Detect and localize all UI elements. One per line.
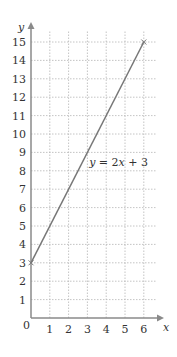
x-tick-label: 6 bbox=[140, 323, 147, 336]
y-tick-label: 12 bbox=[12, 91, 26, 104]
x-axis-label: x bbox=[163, 321, 170, 334]
y-tick-label: 9 bbox=[19, 146, 26, 159]
x-tick-label: 4 bbox=[103, 323, 110, 336]
y-tick-label: 5 bbox=[19, 220, 26, 233]
y-tick-label: 2 bbox=[19, 275, 26, 288]
y-tick-label: 8 bbox=[19, 165, 26, 178]
x-tick-label: 1 bbox=[46, 323, 53, 336]
y-tick-label: 10 bbox=[12, 128, 26, 141]
y-tick-label: 11 bbox=[12, 110, 26, 123]
y-tick-label: 7 bbox=[19, 183, 26, 196]
equation-annotation: y = 2x + 3 bbox=[88, 156, 148, 169]
x-tick-label: 5 bbox=[122, 323, 129, 336]
y-tick-label: 4 bbox=[19, 238, 26, 251]
y-tick-label: 1 bbox=[19, 294, 26, 307]
axes bbox=[28, 22, 165, 322]
y-tick-label: 14 bbox=[12, 54, 26, 67]
y-axis-arrow-icon bbox=[28, 22, 35, 29]
x-tick-label: 3 bbox=[84, 323, 91, 336]
grid-lines bbox=[31, 31, 157, 318]
y-tick-label: 15 bbox=[12, 36, 26, 49]
y-tick-label: 13 bbox=[12, 73, 26, 86]
y-axis-label: y bbox=[17, 21, 25, 34]
tick-labels: 123456123456789101112131415 bbox=[12, 36, 147, 336]
y-tick-label: 6 bbox=[19, 202, 26, 215]
x-tick-label: 2 bbox=[65, 323, 72, 336]
origin-label: 0 bbox=[23, 319, 30, 332]
y-tick-label: 3 bbox=[19, 257, 26, 270]
line-chart: 123456123456789101112131415 x y 0 y = 2x… bbox=[0, 0, 177, 357]
